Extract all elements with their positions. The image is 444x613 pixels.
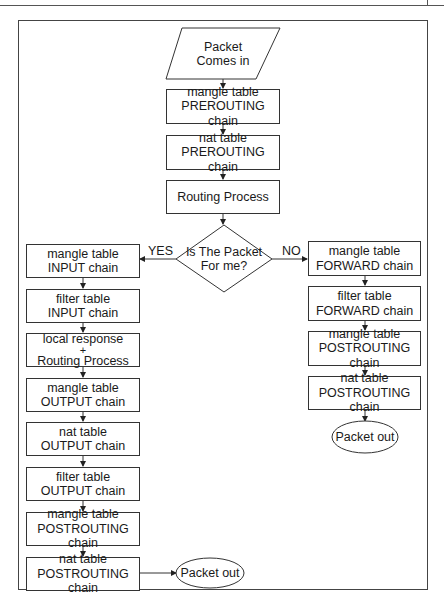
- box-line2: PREROUTING chain: [167, 99, 279, 128]
- box-line1: mangle table: [47, 247, 119, 262]
- filter-output-box: filter table OUTPUT chain: [26, 467, 140, 501]
- no-label: NO: [282, 244, 301, 258]
- box-line2: OUTPUT chain: [41, 484, 126, 499]
- routing-process-box: Routing Process: [166, 180, 280, 214]
- box-line1: mangle table: [187, 85, 259, 100]
- box-line1: filter table: [337, 289, 391, 304]
- nat-output-box: nat table OUTPUT chain: [26, 422, 140, 456]
- nat-postrouting-left-box: nat table POSTROUTING chain: [26, 557, 140, 591]
- box-line1: nat table: [341, 371, 389, 386]
- box-line2: FORWARD chain: [316, 259, 413, 274]
- local-response-routing-box: local response + Routing Process: [26, 333, 140, 367]
- decision-line1: Is The Packet: [186, 245, 262, 260]
- nat-prerouting-box: nat table PREROUTING chain: [166, 135, 280, 170]
- mangle-input-box: mangle table INPUT chain: [26, 244, 140, 278]
- start-line2: Comes in: [197, 54, 250, 69]
- box-line2: PREROUTING chain: [167, 145, 279, 174]
- box-line1: nat table: [199, 131, 247, 146]
- mangle-forward-box: mangle table FORWARD chain: [308, 241, 421, 276]
- box-line2: OUTPUT chain: [41, 439, 126, 454]
- box-line2: POSTROUTING chain: [309, 341, 420, 370]
- box-line2: POSTROUTING chain: [27, 522, 139, 551]
- filter-input-box: filter table INPUT chain: [26, 289, 140, 323]
- box-line1: mangle table: [47, 507, 119, 522]
- decision-line2: For me?: [201, 259, 248, 274]
- start-node: Packet Comes in: [172, 30, 274, 78]
- box-line2: POSTROUTING chain: [27, 567, 139, 596]
- box-line1: Routing Process: [177, 190, 269, 205]
- decision-node: Is The Packet For me?: [182, 243, 266, 275]
- box-line1: mangle table: [47, 381, 119, 396]
- box-line1: nat table: [59, 425, 107, 440]
- mangle-output-box: mangle table OUTPUT chain: [26, 378, 140, 412]
- box-line1: filter table: [56, 292, 110, 307]
- start-line1: Packet: [204, 40, 242, 55]
- box-line2: INPUT chain: [48, 261, 119, 276]
- box-line2: POSTROUTING chain: [309, 386, 420, 415]
- box-line2: Routing Process: [37, 354, 129, 369]
- box-line1: filter table: [56, 470, 110, 485]
- no-end-node: Packet out: [332, 421, 398, 453]
- yes-end-node: Packet out: [176, 558, 244, 588]
- filter-forward-box: filter table FORWARD chain: [308, 286, 421, 321]
- box-line2: OUTPUT chain: [41, 395, 126, 410]
- box-line2: INPUT chain: [48, 306, 119, 321]
- mangle-postrouting-left-box: mangle table POSTROUTING chain: [26, 512, 140, 546]
- plus-sign: +: [80, 346, 86, 354]
- nat-postrouting-right-box: nat table POSTROUTING chain: [308, 376, 421, 410]
- mangle-postrouting-right-box: mangle table POSTROUTING chain: [308, 331, 421, 366]
- box-line1: nat table: [59, 552, 107, 567]
- mangle-prerouting-box: mangle table PREROUTING chain: [166, 89, 280, 124]
- yes-label: YES: [148, 244, 173, 258]
- box-line2: FORWARD chain: [316, 304, 413, 319]
- box-line1: mangle table: [329, 327, 401, 342]
- box-line1: mangle table: [329, 244, 401, 259]
